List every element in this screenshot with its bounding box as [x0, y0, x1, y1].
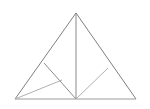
- figure-background: [0, 0, 150, 109]
- geometric-figure: [0, 0, 150, 109]
